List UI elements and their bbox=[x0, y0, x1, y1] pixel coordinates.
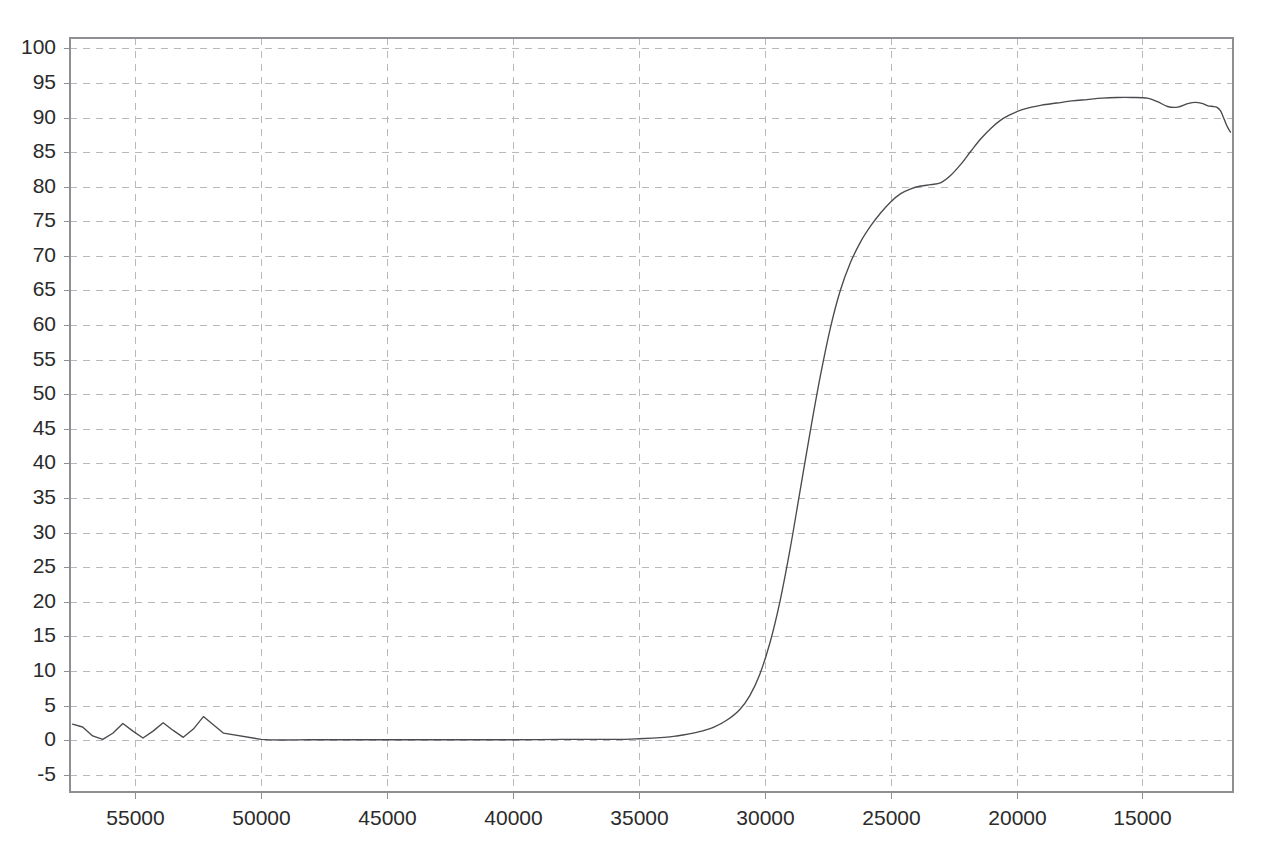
y-tick-label: 75 bbox=[33, 208, 56, 231]
x-tick-label: 30000 bbox=[736, 806, 794, 829]
y-tick-label: 40 bbox=[33, 450, 56, 473]
y-tick-label: 10 bbox=[33, 658, 56, 681]
x-axis-tick-labels: 5500050000450004000035000300002500020000… bbox=[106, 806, 1171, 829]
y-tick-label: 35 bbox=[33, 485, 56, 508]
x-tick-label: 25000 bbox=[862, 806, 920, 829]
y-tick-label: 5 bbox=[44, 693, 56, 716]
y-tick-label: 60 bbox=[33, 312, 56, 335]
x-tick-label: 50000 bbox=[232, 806, 290, 829]
y-tick-label: 0 bbox=[44, 727, 56, 750]
y-tick-label: 100 bbox=[21, 35, 56, 58]
y-tick-label: 45 bbox=[33, 416, 56, 439]
plot-background bbox=[0, 0, 1277, 856]
x-tick-label: 40000 bbox=[484, 806, 542, 829]
x-tick-label: 15000 bbox=[1113, 806, 1171, 829]
y-tick-label: 95 bbox=[33, 70, 56, 93]
y-tick-label: 30 bbox=[33, 520, 56, 543]
y-tick-label: 70 bbox=[33, 243, 56, 266]
y-tick-label: 50 bbox=[33, 381, 56, 404]
y-tick-label: 55 bbox=[33, 347, 56, 370]
y-tick-label: 25 bbox=[33, 554, 56, 577]
y-tick-label: 65 bbox=[33, 277, 56, 300]
y-tick-label: -5 bbox=[37, 762, 56, 785]
y-tick-label: 90 bbox=[33, 105, 56, 128]
x-tick-label: 55000 bbox=[106, 806, 164, 829]
y-tick-label: 15 bbox=[33, 623, 56, 646]
x-tick-label: 45000 bbox=[358, 806, 416, 829]
spectrum-chart: 1009590858075706560555045403530252015105… bbox=[0, 0, 1277, 856]
chart-canvas: 1009590858075706560555045403530252015105… bbox=[0, 0, 1277, 856]
y-tick-label: 85 bbox=[33, 139, 56, 162]
y-tick-label: 20 bbox=[33, 589, 56, 612]
x-tick-label: 20000 bbox=[988, 806, 1046, 829]
x-tick-label: 35000 bbox=[610, 806, 668, 829]
y-tick-label: 80 bbox=[33, 174, 56, 197]
